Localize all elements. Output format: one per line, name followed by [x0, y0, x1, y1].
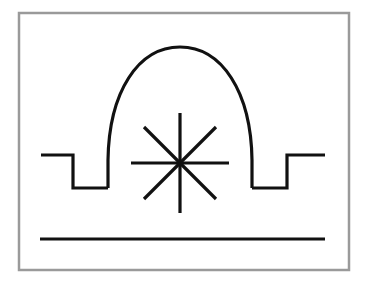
line-art-diagram [0, 0, 368, 287]
canvas-background [0, 0, 368, 287]
figure-root [0, 0, 368, 287]
starburst-asterisk [131, 113, 229, 213]
